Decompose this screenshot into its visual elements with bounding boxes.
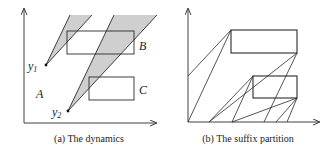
panel-dynamics: y1 y2 A B C (a) The dynamics xyxy=(24,9,157,145)
label-region-a: A xyxy=(35,87,44,101)
label-region-b: B xyxy=(139,39,147,53)
point-y1 xyxy=(45,64,48,67)
label-region-c: C xyxy=(139,83,148,97)
lower-box xyxy=(253,76,297,98)
point-y2 xyxy=(67,110,70,113)
panel-suffix-partition: (b) The suffix partition xyxy=(188,9,319,145)
label-y2: y2 xyxy=(51,105,61,120)
figure: y1 y2 A B C (a) The dynamics xyxy=(0,0,332,153)
caption-a: (a) The dynamics xyxy=(54,133,124,145)
caption-b: (b) The suffix partition xyxy=(202,133,294,145)
upper-box xyxy=(231,30,297,53)
label-y1: y1 xyxy=(27,59,37,74)
